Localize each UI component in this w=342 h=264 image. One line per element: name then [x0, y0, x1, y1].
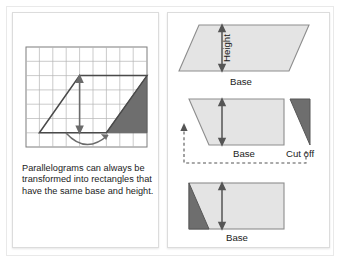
caption-text: Parallelograms can always be transformed…	[22, 163, 154, 197]
parallelogram-shape	[179, 25, 309, 71]
grid-diagram	[24, 45, 149, 153]
base-label: Base	[230, 76, 252, 87]
base-label: Base	[233, 148, 255, 159]
height-label: Height	[221, 34, 232, 62]
base-label: Base	[226, 232, 248, 243]
figure-parallelogram-with-height: Height Base	[172, 19, 328, 93]
trapezoid-shape	[189, 99, 284, 145]
left-panel: Parallelograms can always be transformed…	[12, 12, 159, 248]
move-arrow-head	[180, 123, 187, 131]
figure-rectangle-result: Base	[172, 179, 328, 245]
figure-page: Parallelograms can always be transformed…	[0, 0, 342, 264]
cut-off-triangle	[290, 99, 310, 145]
cut-off-label: Cut off	[286, 148, 314, 159]
figure-parallelogram-cut: Base Cut off	[172, 95, 328, 177]
right-panel: Height Base	[167, 12, 330, 248]
